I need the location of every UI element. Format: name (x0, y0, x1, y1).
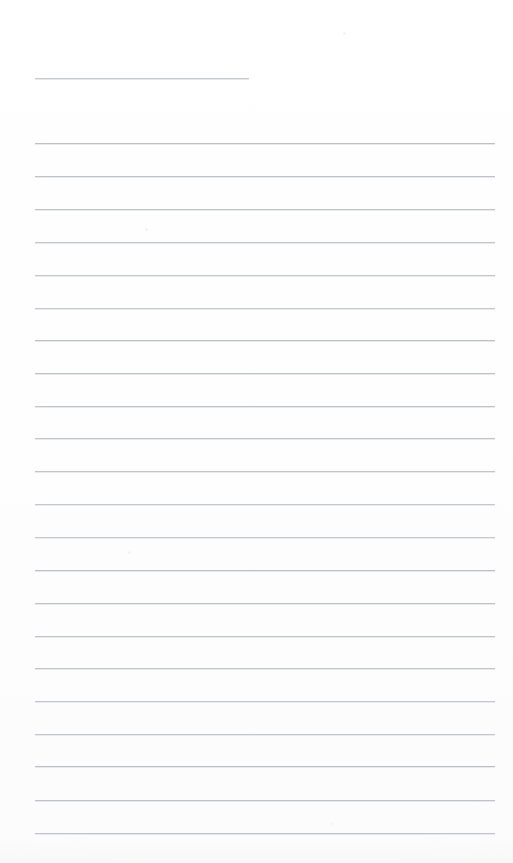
title-rule (35, 78, 249, 79)
body-text (37, 120, 495, 836)
title-text (37, 58, 247, 76)
scanned-page (0, 0, 513, 863)
scan-speck (343, 32, 346, 35)
